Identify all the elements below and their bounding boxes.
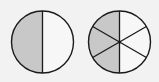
circle-sixths	[89, 11, 151, 73]
center-dot	[118, 40, 121, 43]
fraction-diagram	[0, 0, 159, 82]
circle-halves	[12, 11, 74, 73]
